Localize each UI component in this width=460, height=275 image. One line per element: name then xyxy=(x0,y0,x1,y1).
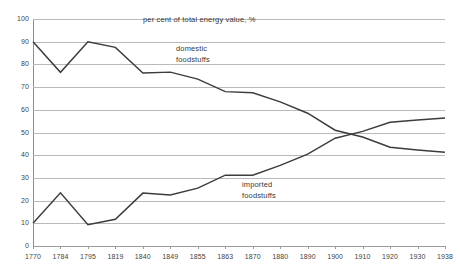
x-tick-label-1819: 1819 xyxy=(107,252,123,261)
plot-area xyxy=(33,19,445,246)
y-tick-label-80: 80 xyxy=(21,60,29,68)
x-tick-label-1870: 1870 xyxy=(245,252,261,261)
x-tick-label-1880: 1880 xyxy=(272,252,288,261)
y-tick-label-40: 40 xyxy=(21,151,29,159)
x-tick-1930 xyxy=(418,246,419,249)
x-tick-label-1910: 1910 xyxy=(355,252,371,261)
x-tick-1938 xyxy=(445,246,446,249)
series-annotation-domestic: domestic foodstuffs xyxy=(176,43,210,65)
x-tick-1784 xyxy=(60,246,61,249)
x-tick-1819 xyxy=(115,246,116,249)
y-tick-label-20: 20 xyxy=(21,197,29,205)
series-annotation-imported: imported foodstuffs xyxy=(242,179,276,201)
x-tick-1920 xyxy=(390,246,391,249)
y-tick-label-50: 50 xyxy=(21,129,29,137)
y-tick-label-30: 30 xyxy=(21,174,29,182)
x-tick-1795 xyxy=(88,246,89,249)
x-tick-label-1930: 1930 xyxy=(410,252,426,261)
x-tick-1849 xyxy=(170,246,171,249)
y-tick-label-100: 100 xyxy=(17,15,29,23)
x-tick-label-1863: 1863 xyxy=(217,252,233,261)
series-line-domestic-foodstuffs xyxy=(33,42,445,153)
y-tick-label-70: 70 xyxy=(21,83,29,91)
y-tick-label-60: 60 xyxy=(21,106,29,114)
x-tick-label-1795: 1795 xyxy=(80,252,96,261)
x-tick-1910 xyxy=(363,246,364,249)
x-axis-ticks xyxy=(33,246,445,250)
x-tick-label-1849: 1849 xyxy=(162,252,178,261)
x-tick-label-1784: 1784 xyxy=(52,252,68,261)
x-tick-label-1920: 1920 xyxy=(382,252,398,261)
x-tick-1900 xyxy=(335,246,336,249)
annotation-imported-line-1: imported xyxy=(242,179,276,190)
x-tick-1770 xyxy=(33,246,34,249)
x-tick-label-1770: 1770 xyxy=(25,252,41,261)
annotation-domestic-line-2: foodstuffs xyxy=(176,54,210,65)
x-tick-1863 xyxy=(225,246,226,249)
y-tick-label-0: 0 xyxy=(25,242,29,250)
line-chart: 0102030405060708090100 17701784179518191… xyxy=(0,0,460,275)
x-tick-label-1900: 1900 xyxy=(327,252,343,261)
annotation-imported-line-2: foodstuffs xyxy=(242,190,276,201)
y-tick-label-90: 90 xyxy=(21,38,29,46)
x-tick-1870 xyxy=(253,246,254,249)
chart-title: per cent of total energy value, % xyxy=(143,15,256,25)
y-axis-labels: 0102030405060708090100 xyxy=(0,19,29,246)
x-tick-1880 xyxy=(280,246,281,249)
annotation-domestic-line-1: domestic xyxy=(176,43,210,54)
x-axis-labels: 1770178417951819184018491855186318701880… xyxy=(33,252,445,266)
series-layer xyxy=(33,19,445,246)
x-tick-1890 xyxy=(308,246,309,249)
x-tick-label-1840: 1840 xyxy=(135,252,151,261)
series-line-imported-foodstuffs xyxy=(33,118,445,225)
x-tick-label-1938: 1938 xyxy=(437,252,453,261)
x-tick-1855 xyxy=(198,246,199,249)
y-tick-label-10: 10 xyxy=(21,219,29,227)
x-tick-label-1890: 1890 xyxy=(300,252,316,261)
x-tick-1840 xyxy=(143,246,144,249)
x-tick-label-1855: 1855 xyxy=(190,252,206,261)
